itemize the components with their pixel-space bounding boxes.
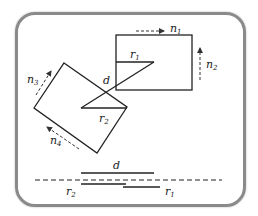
label-n4: n4 bbox=[50, 134, 62, 148]
label-d-bottom: d bbox=[113, 159, 120, 172]
diagram-svg: n1 n2 n3 n4 r1 r2 d d r2 r1 bbox=[0, 0, 258, 216]
label-n1: n1 bbox=[170, 22, 182, 36]
label-r1-bottom: r1 bbox=[165, 185, 175, 199]
diagram-canvas: n1 n2 n3 n4 r1 r2 d d r2 r1 bbox=[0, 0, 258, 216]
label-r1-top: r1 bbox=[130, 48, 140, 62]
label-n2: n2 bbox=[206, 58, 218, 72]
label-r2-mid: r2 bbox=[99, 112, 109, 126]
label-r2-bottom: r2 bbox=[66, 185, 76, 199]
label-d-mid: d bbox=[103, 74, 110, 87]
label-n3: n3 bbox=[27, 73, 39, 87]
